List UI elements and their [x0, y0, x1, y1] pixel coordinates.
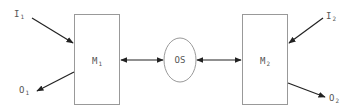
i2-label: I — [326, 11, 331, 21]
diagram-canvas: M 1 OS M 2 I 1 O 1 I 2 O 2 — [0, 0, 353, 108]
node-m1: M 1 — [75, 15, 120, 105]
o1-label: O — [19, 85, 24, 95]
node-os: OS — [164, 38, 196, 82]
m1-label: M — [92, 56, 98, 66]
i1-subscript: 1 — [21, 13, 25, 20]
input-i1: I 1 — [14, 9, 73, 43]
o2-subscript: 2 — [336, 97, 340, 104]
o1-subscript: 1 — [26, 89, 30, 96]
node-m2: M 2 — [243, 15, 288, 105]
os-label: OS — [175, 55, 186, 65]
i2-arrow-icon — [289, 18, 323, 43]
i1-label: I — [14, 9, 19, 19]
m2-label: M — [260, 56, 266, 66]
i1-arrow-icon — [32, 18, 73, 43]
output-o1: O 1 — [19, 72, 74, 96]
output-o2: O 2 — [288, 83, 340, 104]
m2-subscript: 2 — [267, 60, 271, 67]
o2-label: O — [329, 93, 334, 103]
o2-arrow-icon — [288, 83, 325, 97]
o1-arrow-icon — [37, 72, 74, 91]
m1-subscript: 1 — [99, 60, 103, 67]
i2-subscript: 2 — [333, 15, 337, 22]
input-i2: I 2 — [289, 11, 337, 43]
